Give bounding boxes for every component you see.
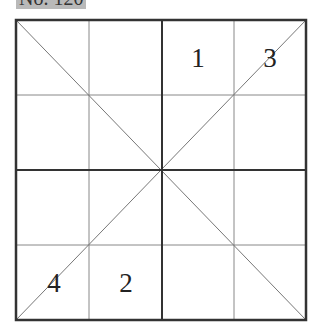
cell-r1c3-value: 1 — [191, 43, 205, 73]
cell-r4c1-value: 4 — [47, 268, 61, 298]
cell-r1c4-value: 3 — [263, 43, 277, 73]
sudoku-grid: 1 3 4 2 — [0, 0, 314, 329]
cell-r4c2-value: 2 — [119, 268, 133, 298]
